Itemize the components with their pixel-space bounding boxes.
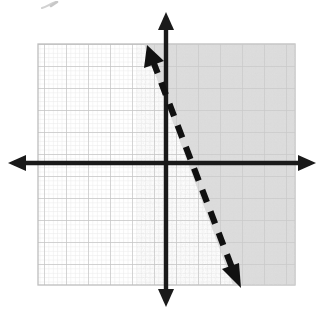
x-axis-arrow-right: [298, 155, 316, 171]
y-axis-arrow-down: [158, 289, 174, 307]
coordinate-plane-graphic: [0, 0, 321, 313]
y-axis-arrow-up: [158, 12, 174, 30]
x-axis-arrow-left: [8, 155, 26, 171]
graph-figure: Linear inequality graph on a coordinate …: [0, 0, 321, 313]
